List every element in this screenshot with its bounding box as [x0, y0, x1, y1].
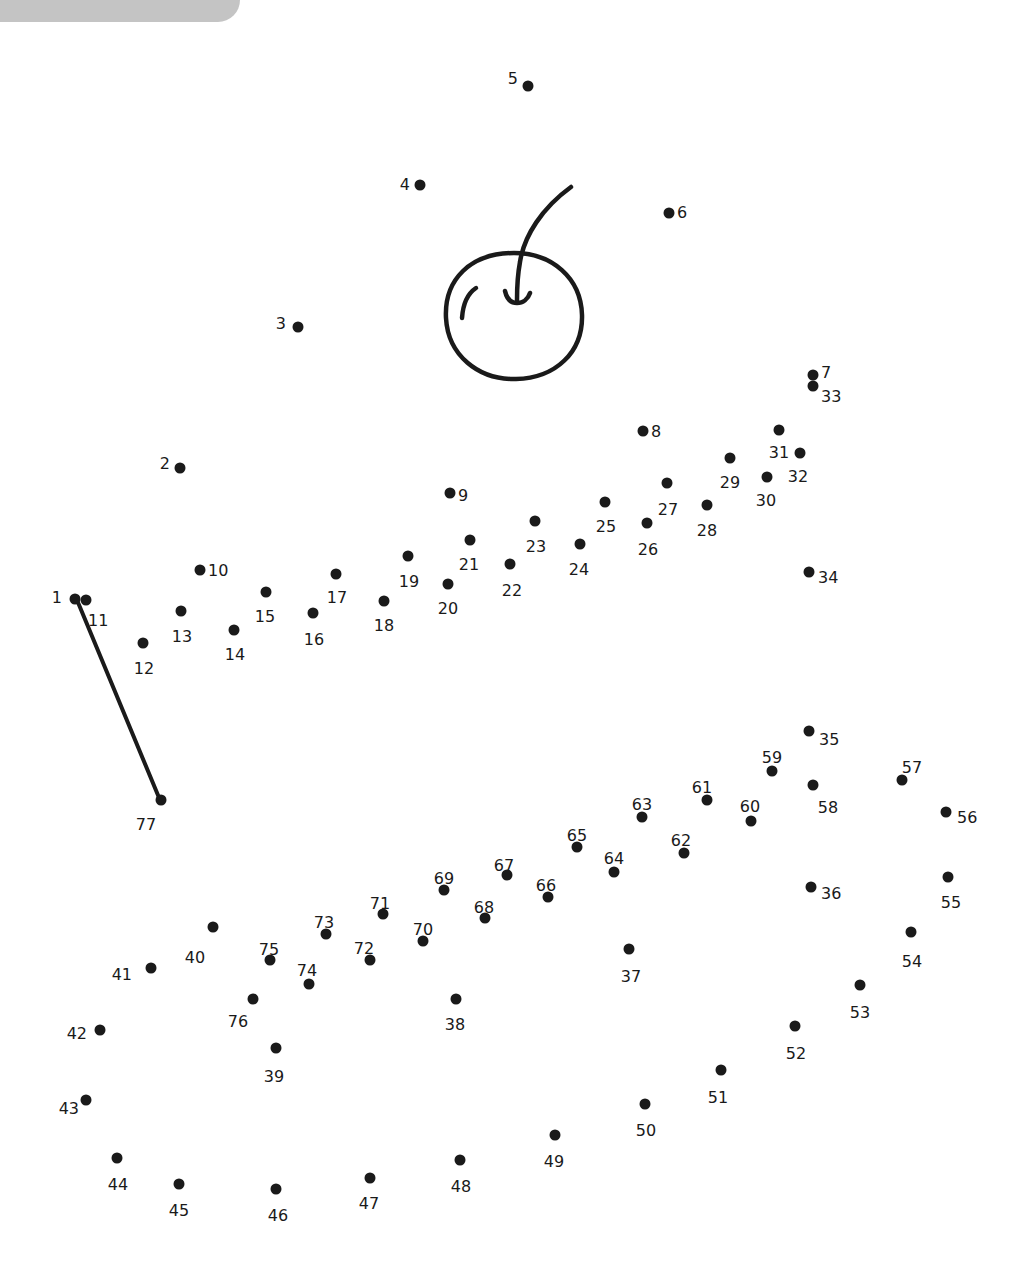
- dot-62: 62: [671, 831, 691, 859]
- dot-marker: [795, 448, 806, 459]
- dot-marker: [808, 370, 819, 381]
- dot-5: 5: [508, 69, 534, 92]
- dot-number-label: 64: [604, 849, 624, 868]
- dot-number-label: 70: [413, 920, 433, 939]
- dot-marker: [229, 625, 240, 636]
- dot-number-label: 72: [354, 939, 374, 958]
- dot-16: 16: [304, 608, 324, 650]
- dot-marker: [767, 766, 778, 777]
- cherry-icon: [446, 187, 582, 379]
- dot-29: 29: [720, 453, 740, 493]
- dot-number-label: 62: [671, 831, 691, 850]
- dot-marker: [248, 994, 259, 1005]
- dot-marker: [523, 81, 534, 92]
- dot-46: 46: [268, 1184, 288, 1226]
- dot-number-label: 52: [786, 1044, 806, 1063]
- dot-number-label: 36: [821, 884, 841, 903]
- dot-marker: [112, 1153, 123, 1164]
- dot-36: 36: [806, 882, 842, 904]
- dot-marker: [855, 980, 866, 991]
- dot-number-label: 53: [850, 1003, 870, 1022]
- dot-number-label: 55: [941, 893, 961, 912]
- dot-31: 31: [769, 425, 789, 463]
- dot-number-label: 1: [52, 588, 62, 607]
- dot-number-label: 49: [544, 1152, 564, 1171]
- dot-marker: [804, 726, 815, 737]
- dot-marker: [271, 1043, 282, 1054]
- dot-43: 43: [59, 1095, 92, 1119]
- dot-marker: [81, 595, 92, 606]
- dot-number-label: 7: [821, 363, 831, 382]
- dot-marker: [746, 816, 757, 827]
- dot-40: 40: [185, 922, 219, 968]
- dot-57: 57: [897, 758, 923, 786]
- dot-26: 26: [638, 518, 658, 560]
- dot-number-label: 47: [359, 1194, 379, 1213]
- dot-marker: [138, 638, 149, 649]
- dot-72: 72: [354, 939, 376, 966]
- dots-layer: 1234567891011121314151617181920212223242…: [52, 69, 978, 1225]
- dot-marker: [943, 872, 954, 883]
- dot-14: 14: [225, 625, 245, 665]
- dot-marker: [445, 488, 456, 499]
- dot-marker: [415, 180, 426, 191]
- dot-19: 19: [399, 551, 419, 592]
- dot-number-label: 18: [374, 616, 394, 635]
- dot-marker: [261, 587, 272, 598]
- dot-number-label: 8: [651, 422, 661, 441]
- dot-number-label: 71: [370, 894, 390, 913]
- dot-number-label: 11: [88, 611, 108, 630]
- dot-number-label: 54: [902, 952, 922, 971]
- dot-41: 41: [112, 963, 157, 985]
- dot-11: 11: [81, 595, 109, 631]
- dot-number-label: 56: [957, 808, 977, 827]
- dot-number-label: 68: [474, 898, 494, 917]
- dot-marker: [505, 559, 516, 570]
- dot-23: 23: [526, 516, 546, 557]
- dot-37: 37: [621, 944, 641, 987]
- dot-marker: [95, 1025, 106, 1036]
- dot-number-label: 2: [160, 454, 170, 473]
- dot-49: 49: [544, 1130, 564, 1172]
- dot-number-label: 75: [259, 940, 279, 959]
- dot-marker: [808, 780, 819, 791]
- dot-number-label: 34: [818, 568, 838, 587]
- dot-2: 2: [160, 454, 186, 474]
- dot-number-label: 63: [632, 795, 652, 814]
- dot-marker: [175, 463, 186, 474]
- dot-marker: [208, 922, 219, 933]
- dot-marker: [304, 979, 315, 990]
- dot-number-label: 74: [297, 961, 317, 980]
- dot-number-label: 9: [458, 486, 468, 505]
- dot-number-label: 40: [185, 948, 205, 967]
- dot-3: 3: [276, 314, 304, 333]
- dot-marker: [642, 518, 653, 529]
- dot-number-label: 45: [169, 1201, 189, 1220]
- dot-34: 34: [804, 567, 839, 588]
- dot-39: 39: [264, 1043, 284, 1087]
- dot-28: 28: [697, 500, 717, 541]
- dot-71: 71: [370, 894, 390, 920]
- dot-number-label: 29: [720, 473, 740, 492]
- dot-marker: [451, 994, 462, 1005]
- connecting-line: [77, 600, 160, 800]
- dot-marker: [725, 453, 736, 464]
- dot-marker: [600, 497, 611, 508]
- dot-marker: [455, 1155, 466, 1166]
- dot-number-label: 12: [134, 659, 154, 678]
- dot-number-label: 35: [819, 730, 839, 749]
- dot-marker: [70, 594, 81, 605]
- dot-number-label: 44: [108, 1175, 128, 1194]
- dot-number-label: 57: [902, 758, 922, 777]
- dot-marker: [465, 535, 476, 546]
- dot-marker: [716, 1065, 727, 1076]
- dot-marker: [624, 944, 635, 955]
- dot-number-label: 10: [208, 561, 228, 580]
- dot-33: 33: [808, 381, 842, 407]
- dot-number-label: 65: [567, 826, 587, 845]
- dot-69: 69: [434, 869, 454, 896]
- dot-64: 64: [604, 849, 624, 878]
- dot-number-label: 20: [438, 599, 458, 618]
- dot-marker: [804, 567, 815, 578]
- dot-number-label: 30: [756, 491, 776, 510]
